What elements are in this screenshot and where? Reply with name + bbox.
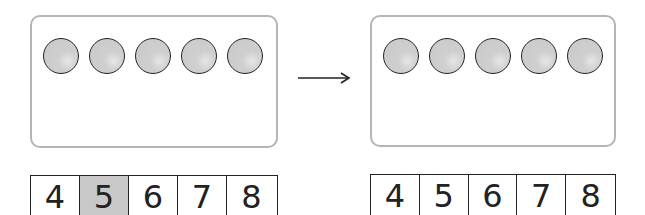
number-cell: 4 — [31, 176, 80, 215]
counter-circle — [383, 38, 419, 74]
counter-circle — [89, 38, 125, 74]
left-frame — [30, 15, 278, 148]
number-cell: 4 — [371, 175, 420, 215]
right-number-strip: 4 5 6 7 8 — [370, 174, 616, 215]
counter-circle — [135, 38, 171, 74]
counter-circle — [181, 38, 217, 74]
number-cell: 6 — [469, 175, 518, 215]
counter-circle — [429, 38, 465, 74]
counter-circle — [475, 38, 511, 74]
number-cell: 5 — [80, 176, 129, 215]
number-cell: 5 — [420, 175, 469, 215]
number-cell: 7 — [517, 175, 566, 215]
number-cell: 7 — [178, 176, 227, 215]
counter-circle — [43, 38, 79, 74]
left-number-strip: 4 5 6 7 8 — [30, 175, 278, 215]
right-frame — [370, 15, 616, 147]
counter-circle — [227, 38, 263, 74]
counter-circle — [567, 38, 603, 74]
number-cell: 6 — [129, 176, 178, 215]
right-arrow-icon — [296, 70, 352, 86]
number-cell: 8 — [227, 176, 276, 215]
number-cell: 8 — [566, 175, 615, 215]
counter-circle — [521, 38, 557, 74]
